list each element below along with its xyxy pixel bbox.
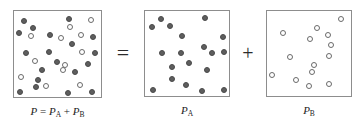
- caption-b-subscript: B: [310, 109, 315, 118]
- gas-a-caption: PA: [144, 105, 230, 116]
- partial-pressure-diagram: = + P = PA + PB PA PB: [0, 0, 363, 128]
- caption-plus: +: [61, 105, 73, 117]
- mixture-caption: P = PA + PB: [13, 106, 102, 117]
- caption-b-p: P: [303, 104, 310, 116]
- caption-a-p: P: [181, 104, 188, 116]
- caption-pb: P: [73, 105, 80, 117]
- caption-a-subscript: A: [188, 109, 193, 118]
- plus-operator: +: [236, 43, 260, 63]
- caption-pb-subscript: B: [80, 110, 85, 119]
- caption-pa-subscript: A: [56, 110, 61, 119]
- caption-pa: P: [49, 105, 56, 117]
- caption-equals: =: [37, 105, 49, 117]
- gas-b-caption: PB: [266, 105, 352, 116]
- equals-operator: =: [111, 42, 135, 64]
